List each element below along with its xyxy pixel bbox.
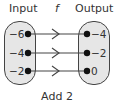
output-point: [84, 50, 90, 56]
input-point: [25, 50, 31, 56]
input-point: [25, 31, 31, 37]
input-point: [25, 68, 31, 74]
output-point: [84, 68, 90, 74]
function-rule: Add 2: [0, 90, 114, 103]
output-point: [84, 31, 90, 37]
